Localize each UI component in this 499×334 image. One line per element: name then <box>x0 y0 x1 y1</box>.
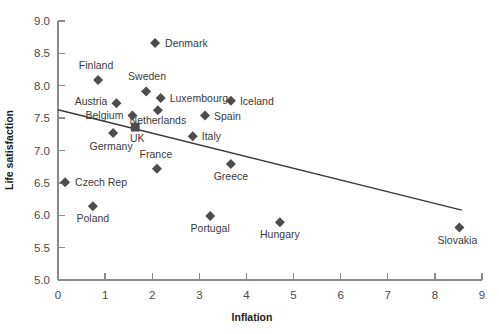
data-point-marker-diamond <box>150 38 160 48</box>
data-point-marker-diamond <box>454 223 464 233</box>
x-tick-label: 9 <box>479 289 485 301</box>
data-point-label: Italy <box>202 130 222 142</box>
data-point: Sweden <box>128 70 166 97</box>
data-point-label: Luxembourg <box>170 92 229 104</box>
data-point-marker-diamond <box>205 211 215 221</box>
data-point: Portugal <box>191 211 230 234</box>
data-point-marker-diamond <box>88 201 98 211</box>
data-points-group: DenmarkFinlandSwedenLuxembourgIcelandAus… <box>60 37 477 246</box>
data-point-label: Hungary <box>260 228 300 240</box>
data-point-label: Denmark <box>165 37 208 49</box>
data-point-marker-diamond <box>111 98 121 108</box>
data-point: Greece <box>214 159 249 182</box>
data-point-marker-diamond <box>152 164 162 174</box>
x-tick-label: 8 <box>432 289 438 301</box>
data-point: Spain <box>200 110 241 122</box>
x-tick-label: 1 <box>102 289 108 301</box>
x-axis-title: Inflation <box>232 311 273 323</box>
data-point-marker-diamond <box>93 75 103 85</box>
data-point-label: Iceland <box>240 95 274 107</box>
y-tick-label: 6.5 <box>34 177 50 189</box>
data-point: Poland <box>77 201 110 224</box>
data-point-label: Belgium <box>85 109 123 121</box>
data-point: Denmark <box>150 37 208 49</box>
data-point: Czech Rep <box>60 176 127 188</box>
x-tick-label: 7 <box>385 289 391 301</box>
data-point: Finland <box>79 59 114 85</box>
data-point-marker-diamond <box>275 217 285 227</box>
x-tick-label: 0 <box>55 289 61 301</box>
y-tick-label: 5.5 <box>34 242 50 254</box>
data-point-marker-diamond <box>188 131 198 141</box>
scatter-chart-container: 5.05.56.06.57.07.58.08.59.0 0123456789 D… <box>0 0 499 334</box>
data-point-marker-diamond <box>156 93 166 103</box>
data-point-label: Slovakia <box>438 234 478 246</box>
data-point: Austria <box>75 95 122 108</box>
data-point-label: France <box>140 148 173 160</box>
data-point: France <box>140 148 173 174</box>
trendline-group <box>58 110 462 210</box>
data-point: Luxembourg <box>156 92 229 104</box>
data-point: Slovakia <box>438 223 478 246</box>
data-point-marker-diamond <box>60 177 70 187</box>
data-point: Germany <box>90 128 134 152</box>
x-tick-label: 4 <box>243 289 250 301</box>
data-point-label: Germany <box>90 140 134 152</box>
x-tick-label: 3 <box>196 289 202 301</box>
regression-trend-line <box>58 110 462 210</box>
y-tick-label: 7.0 <box>34 145 50 157</box>
data-point-label: Greece <box>214 170 249 182</box>
data-point-label: Austria <box>75 95 108 107</box>
y-tick-label: 8.0 <box>34 80 50 92</box>
y-tick-label: 8.5 <box>34 47 50 59</box>
data-point-label: Portugal <box>191 222 230 234</box>
x-tick-label: 2 <box>149 289 155 301</box>
data-point-marker-diamond <box>141 87 151 97</box>
data-point-marker-diamond <box>226 159 236 169</box>
data-point-label: Poland <box>77 212 110 224</box>
chart-plot-area: 5.05.56.06.57.07.58.08.59.0 0123456789 D… <box>0 0 499 334</box>
y-axis-title: Life satisfaction <box>3 110 15 190</box>
data-point: Hungary <box>260 217 300 240</box>
x-tick-label: 6 <box>337 289 343 301</box>
y-tick-label: 6.0 <box>34 209 50 221</box>
y-tick-label: 7.5 <box>34 112 50 124</box>
x-tick-label: 5 <box>290 289 296 301</box>
y-axis-ticks: 5.05.56.06.57.07.58.08.59.0 <box>34 15 65 286</box>
data-point: Italy <box>188 130 222 142</box>
y-tick-label: 9.0 <box>34 15 50 27</box>
data-point-label: Sweden <box>128 70 166 82</box>
data-point: Iceland <box>226 95 274 107</box>
data-point-marker-square <box>131 123 140 132</box>
data-point-marker-diamond <box>108 128 118 138</box>
x-axis-ticks: 0123456789 <box>55 273 485 301</box>
data-point-label: Finland <box>79 59 114 71</box>
data-point-marker-diamond <box>200 111 210 121</box>
data-point-label: Spain <box>214 110 241 122</box>
data-point-label: Czech Rep <box>75 176 127 188</box>
y-tick-label: 5.0 <box>34 274 50 286</box>
